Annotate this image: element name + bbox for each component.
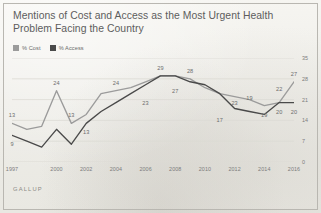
y-axis-tick-label: 21: [302, 97, 308, 103]
x-axis-tick-label: 2012: [228, 166, 240, 172]
legend-item-label: % Cost: [22, 45, 41, 51]
y-axis-tick-label: 35: [302, 55, 308, 61]
square-swatch-icon: [13, 45, 19, 51]
x-axis-tick-label: 2014: [258, 166, 270, 172]
x-axis-tick-label: 2000: [50, 166, 62, 172]
chart-screenshot: Mentions of Cost and Access as the Most …: [0, 0, 321, 213]
y-axis-tick-label: 7: [302, 138, 305, 144]
series-line: [12, 76, 294, 147]
y-axis-tick-label: 14: [302, 117, 308, 123]
x-axis-tick-label: 2002: [80, 166, 92, 172]
legend-item-label: % Access: [59, 45, 84, 51]
x-axis-tick-label: 1997: [6, 166, 18, 172]
gallup-wordmark: GALLUP: [13, 186, 43, 192]
x-axis: 1997200020022004200620082010201220142016: [12, 166, 294, 178]
x-axis-tick-label: 2004: [110, 166, 122, 172]
title-line-1: Mentions of Cost and Access as the Most …: [13, 9, 285, 22]
y-axis: 0714212835: [298, 58, 318, 162]
series-line: [12, 76, 294, 129]
legend-item: % Access: [50, 45, 84, 51]
y-axis-tick-label: 0: [302, 159, 305, 165]
title-line-2: Problem Facing the Country: [13, 22, 285, 35]
x-axis-tick-label: 2006: [139, 166, 151, 172]
plot-area: [12, 58, 294, 162]
x-axis-tick-label: 2016: [288, 166, 300, 172]
legend-item: % Cost: [13, 45, 41, 51]
chart-svg: [12, 58, 294, 162]
square-swatch-icon: [50, 45, 56, 51]
chart-legend: % Cost% Access: [13, 45, 84, 51]
x-axis-tick-label: 2010: [199, 166, 211, 172]
x-axis-tick-label: 2008: [169, 166, 181, 172]
page-title: Mentions of Cost and Access as the Most …: [13, 9, 285, 35]
y-axis-tick-label: 28: [302, 76, 308, 82]
